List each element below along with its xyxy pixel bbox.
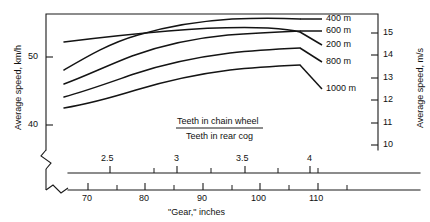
gear-ratio-label-2-5: 2.5 — [101, 154, 114, 163]
gear-ratio-label-3: 3 — [174, 154, 179, 163]
right-axis-title: Average speed, m/s — [416, 48, 425, 128]
bottom-axis — [68, 183, 420, 190]
curve-label-800m: 800 m — [326, 57, 351, 66]
x-tick-label-70: 70 — [82, 194, 92, 203]
x-tick-label-80: 80 — [139, 194, 149, 203]
left-axis-ticks — [46, 57, 53, 125]
left-tick-label-40: 40 — [28, 120, 38, 129]
right-tick-label-12: 12 — [383, 95, 393, 104]
annotation-numerator: Teeth in chain wheel — [177, 117, 259, 126]
gear-ratio-label-3-5: 3.5 — [236, 154, 249, 163]
x-tick-label-90: 90 — [197, 194, 207, 203]
bottom-axis-title: "Gear," inches — [168, 208, 225, 217]
curve-400m — [64, 18, 300, 70]
right-tick-label-11: 11 — [383, 118, 392, 127]
x-tick-label-100: 100 — [251, 194, 266, 203]
curve-label-600m: 600 m — [326, 26, 351, 35]
right-tick-label-15: 15 — [383, 28, 393, 37]
curve-label-200m: 200 m — [326, 40, 351, 49]
x-axis-break-icon — [46, 185, 68, 193]
curve-800m — [64, 48, 300, 97]
chart-canvas — [0, 0, 430, 222]
curve-label-1000m: 1000 m — [326, 84, 356, 93]
y-axis-break-icon — [41, 150, 51, 169]
speed-vs-gear-chart: Average speed, km/h 50 40 Average speed,… — [0, 0, 430, 222]
label-leaders — [300, 19, 322, 89]
right-tick-label-14: 14 — [383, 50, 393, 59]
right-axis-ticks — [371, 33, 378, 145]
left-axis-title: Average speed, km/h — [14, 45, 23, 130]
left-tick-label-50: 50 — [28, 52, 38, 61]
gear-ratio-axis — [68, 166, 420, 173]
x-tick-label-110: 110 — [309, 194, 323, 203]
gear-ratio-label-4: 4 — [307, 154, 312, 163]
annotation-denominator: Teeth in rear cog — [186, 132, 253, 141]
curve-label-400m: 400 m — [326, 14, 351, 23]
right-tick-label-10: 10 — [383, 140, 393, 149]
curve-200m — [64, 28, 300, 42]
right-tick-label-13: 13 — [383, 73, 393, 82]
curve-600m — [64, 31, 300, 84]
